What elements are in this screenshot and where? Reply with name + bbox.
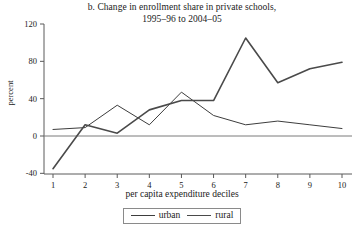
legend-label-rural: rural [215, 210, 233, 221]
y-tick-label: 40 [29, 94, 38, 104]
legend-box: urban rural [123, 208, 242, 224]
legend: urban rural [0, 208, 364, 224]
legend-swatch-rural-icon [187, 215, 211, 216]
data-series-group [53, 38, 342, 169]
x-axis-ticks: 12345678910 [51, 174, 346, 190]
y-tick-label: -40 [26, 168, 37, 178]
chart-figure: b. Change in enrollment share in private… [0, 0, 364, 229]
legend-swatch-urban-icon [131, 215, 155, 216]
legend-item-urban[interactable]: urban [131, 210, 181, 221]
legend-item-rural[interactable]: rural [187, 210, 233, 221]
y-tick-label: 0 [33, 131, 37, 141]
y-tick-label: 80 [29, 56, 38, 66]
y-tick-label: 120 [24, 19, 37, 29]
legend-label-urban: urban [159, 210, 181, 221]
x-axis-label: per capita expenditure deciles [0, 189, 364, 199]
series-line-urban [53, 92, 342, 129]
y-axis-ticks: -4004080120 [24, 19, 44, 178]
